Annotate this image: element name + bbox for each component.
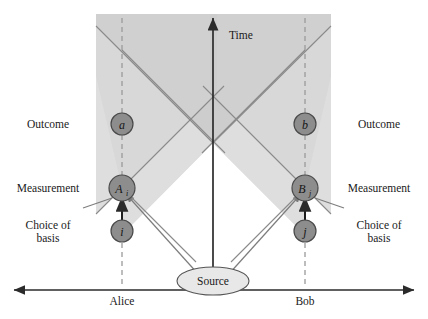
node-measurement-b[interactable]: B j: [292, 175, 318, 201]
node-measurement-a-subscript: i: [126, 189, 128, 198]
spacetime-diagram: Source a b A i B j i j Time Alice Bob Ou…: [0, 0, 428, 319]
left-label-basis: basis: [37, 232, 61, 244]
node-basis-j[interactable]: j: [294, 220, 316, 242]
node-outcome-a[interactable]: a: [111, 113, 133, 135]
left-label-measurement: Measurement: [17, 182, 80, 194]
right-label-basis: basis: [368, 232, 392, 244]
right-label-measurement: Measurement: [348, 182, 411, 194]
right-label-outcome: Outcome: [358, 118, 400, 130]
node-basis-i[interactable]: i: [111, 220, 133, 242]
node-outcome-b-label: b: [302, 118, 308, 132]
left-label-outcome: Outcome: [27, 118, 69, 130]
node-measurement-b-label: B: [298, 182, 306, 196]
node-measurement-a-label: A: [114, 182, 123, 196]
bob-axis-label: Bob: [295, 295, 314, 307]
source-label: Source: [197, 275, 229, 287]
time-axis-label: Time: [229, 29, 253, 41]
node-outcome-a-label: a: [119, 118, 125, 132]
left-label-choice: Choice of: [25, 219, 70, 231]
node-measurement-a[interactable]: A i: [109, 175, 135, 201]
node-outcome-b[interactable]: b: [294, 113, 316, 135]
alice-axis-label: Alice: [110, 295, 135, 307]
right-label-choice: Choice of: [356, 219, 401, 231]
node-basis-i-label: i: [120, 225, 123, 239]
